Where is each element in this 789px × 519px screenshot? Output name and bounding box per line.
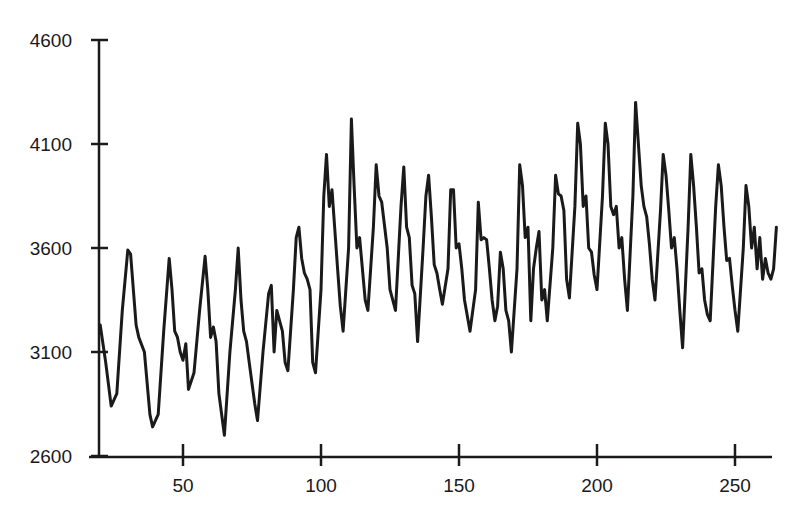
line-chart: 26003100360041004600 50100150200250 [0,0,789,519]
y-tick-label: 2600 [30,446,72,467]
x-tick-label: 50 [172,475,193,496]
y-tick-label: 4600 [30,30,72,51]
x-axis: 50100150200250 [89,444,772,496]
y-tick-label: 4100 [30,134,72,155]
y-tick-label: 3100 [30,342,72,363]
x-tick-label: 250 [719,475,751,496]
y-axis: 26003100360041004600 [30,30,108,467]
x-tick-label: 100 [305,475,337,496]
y-tick-label: 3600 [30,238,72,259]
x-tick-label: 200 [581,475,613,496]
data-line [100,102,776,435]
x-tick-label: 150 [443,475,475,496]
